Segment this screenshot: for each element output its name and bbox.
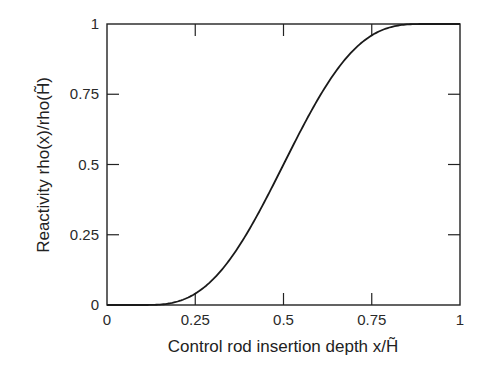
reactivity-chart: 00.250.50.75100.250.50.751 Control rod i… xyxy=(0,0,486,380)
x-tick-label: 0 xyxy=(103,311,111,328)
x-tick-label: 1 xyxy=(456,311,464,328)
x-axis-title: Control rod insertion depth x/H̃ xyxy=(168,336,399,356)
x-tick-label: 0.5 xyxy=(273,311,294,328)
y-tick-label: 1 xyxy=(91,15,99,32)
y-tick-label: 0.5 xyxy=(78,156,99,173)
x-tick-label: 0.25 xyxy=(181,311,210,328)
y-tick-label: 0.25 xyxy=(70,226,99,243)
y-axis-title: Reactivity rho(x)/rho(H̃) xyxy=(33,77,53,253)
y-tick-label: 0 xyxy=(91,296,99,313)
reactivity-curve xyxy=(107,24,460,305)
plot-area: 00.250.50.75100.250.50.751 xyxy=(70,15,464,328)
y-tick-label: 0.75 xyxy=(70,85,99,102)
x-tick-label: 0.75 xyxy=(357,311,386,328)
